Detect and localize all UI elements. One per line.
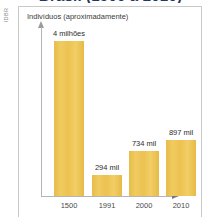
x-tick-label: 2010 — [173, 201, 190, 210]
x-tick-label: 1500 — [61, 201, 78, 210]
bar-group-2000[interactable]: 734 mil2000 — [129, 151, 159, 196]
x-tick-label: 2000 — [136, 201, 153, 210]
chart-title: Brasil (1500 a 2010) — [18, 0, 203, 3]
bar-rect[interactable] — [54, 41, 84, 196]
x-axis-line — [41, 196, 173, 197]
bar-value-label: 734 mil — [132, 139, 156, 148]
bar-rect[interactable] — [129, 151, 159, 196]
y-axis-title: Indivíduos (aproximadamente) — [27, 12, 128, 21]
bar-group-2010[interactable]: 897 mil2010 — [166, 140, 196, 196]
bar-group-1500[interactable]: 4 milhões1500 — [54, 41, 84, 196]
chart-frame: Indivíduos (aproximadamente) Ano 4 milhõ… — [18, 6, 202, 217]
bar-value-label: 294 mil — [95, 163, 119, 172]
plot-area: 4 milhões1500294 mil1991734 mil2000897 m… — [42, 27, 182, 196]
bar-group-1991[interactable]: 294 mil1991 — [92, 175, 122, 196]
source-credit-label: IDBR — [3, 2, 9, 28]
bar-value-label: 4 milhões — [53, 29, 85, 38]
bar-rect[interactable] — [92, 175, 122, 196]
bar-rect[interactable] — [166, 140, 196, 196]
x-tick-label: 1991 — [99, 201, 116, 210]
bar-value-label: 897 mil — [169, 128, 193, 137]
